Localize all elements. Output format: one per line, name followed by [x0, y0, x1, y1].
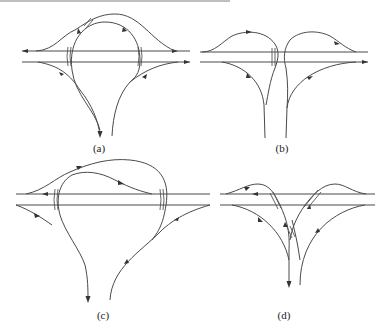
arrow-icon: [59, 72, 64, 76]
bridge-mark: [54, 189, 58, 210]
inner-loop-ramp: [58, 172, 152, 300]
arrow-icon: [246, 30, 252, 34]
outer-loop-ramp: [26, 160, 167, 240]
arrow-icon: [34, 213, 40, 218]
arrow-icon: [315, 228, 320, 233]
left-lower-ramp: [222, 62, 265, 138]
center-right-leg: [286, 68, 288, 108]
left-leg-ramp: [38, 62, 100, 135]
panel-b: (b): [200, 30, 368, 155]
interchange-diagram: (a) (b): [0, 0, 387, 326]
right-lower-ramp: [300, 205, 365, 285]
panel-label-b: (b): [276, 142, 289, 155]
cropped-text-strip: [0, 0, 230, 2]
right-flyover-ramp: [290, 184, 366, 240]
arrow-icon: [86, 296, 91, 303]
panel-label-d: (d): [278, 309, 291, 322]
panel-d: (d): [220, 184, 375, 322]
center-left-leg: [266, 68, 275, 105]
right-lower-ramp: [286, 62, 356, 138]
arrow-icon: [287, 281, 292, 288]
panel-label-c: (c): [97, 309, 110, 322]
bridge-mark: [272, 48, 275, 66]
panel-label-a: (a): [93, 142, 106, 155]
inner-loop-ramp: [71, 22, 140, 130]
arrow-icon: [184, 60, 190, 64]
left-loop-ramp: [202, 32, 278, 68]
arrow-icon: [42, 192, 48, 196]
bridge-mark: [160, 189, 164, 210]
center-crossing-leg: [292, 220, 300, 260]
outer-loop-ramp: [36, 14, 175, 51]
right-leg-ramp: [112, 62, 178, 136]
arrow-icon: [362, 60, 368, 64]
panel-c: (c): [16, 160, 210, 322]
arrow-icon: [77, 28, 81, 34]
panel-a: (a): [22, 14, 190, 155]
left-lower-ramp: [16, 205, 52, 225]
arrow-icon: [22, 49, 28, 53]
arrow-icon: [142, 74, 147, 79]
left-lower-ramp: [232, 205, 289, 260]
bridge-mark: [304, 190, 321, 209]
bridge-mark: [67, 47, 71, 66]
arrow-icon: [124, 259, 129, 264]
arrow-icon: [252, 192, 258, 196]
right-lower-ramp: [110, 205, 210, 300]
arrow-icon: [244, 187, 250, 191]
left-flyover-ramp: [226, 184, 289, 285]
arrow-icon: [98, 131, 103, 138]
